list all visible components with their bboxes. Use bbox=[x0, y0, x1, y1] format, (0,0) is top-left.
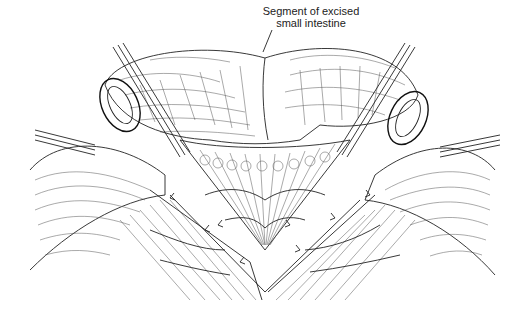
excised-small-intestine-segment bbox=[92, 48, 436, 151]
label-leader-line bbox=[263, 30, 272, 52]
excised-mesentery-wedge bbox=[180, 140, 350, 250]
intestine-illustration bbox=[0, 0, 524, 317]
left-remaining-intestine bbox=[30, 130, 262, 300]
left-intestinal-clamp bbox=[113, 43, 190, 157]
right-remaining-intestine bbox=[268, 135, 500, 300]
